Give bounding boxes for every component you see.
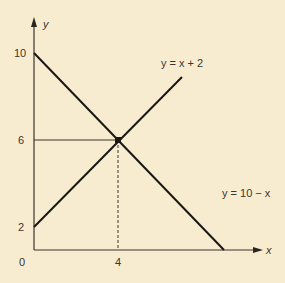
y-axis-arrow-icon: [31, 17, 37, 27]
y-tick-10: 10: [14, 47, 26, 59]
x-tick-4: 4: [115, 256, 121, 268]
line-label-x-plus-2: y = x + 2: [161, 57, 203, 69]
x-axis-arrow-icon: [253, 247, 263, 253]
y-tick-2: 2: [18, 221, 24, 233]
line-y-eq-10-minus-x: [34, 53, 224, 250]
line-label-10-minus-x: y = 10 − x: [222, 187, 271, 199]
line-y-eq-x-plus-2: [34, 77, 182, 227]
x-axis-label: x: [265, 244, 272, 256]
chart: y x 10 6 2 0 4 y = x + 2 y = 10 − x: [0, 0, 285, 283]
intersection-point: [115, 137, 121, 143]
y-tick-6: 6: [18, 134, 24, 146]
y-axis-label: y: [42, 18, 50, 30]
origin-tick-0: 0: [19, 256, 25, 268]
